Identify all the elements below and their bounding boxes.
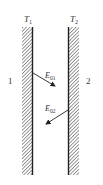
temperature-label-2: T2 (70, 14, 78, 25)
wall-1 (22, 27, 33, 175)
arrow-e02: E02 (44, 104, 68, 124)
region-label-1: 1 (8, 76, 13, 86)
region-label-2: 2 (86, 76, 91, 86)
temperature-label-1: T1 (24, 14, 32, 25)
svg-text:E01: E01 (44, 71, 56, 81)
arrow-e01: E01 (33, 71, 56, 86)
wall-2 (69, 27, 80, 175)
svg-text:E02: E02 (44, 104, 56, 114)
radiation-diagram: T1 T2 1 2 E01 E02 (0, 0, 103, 185)
